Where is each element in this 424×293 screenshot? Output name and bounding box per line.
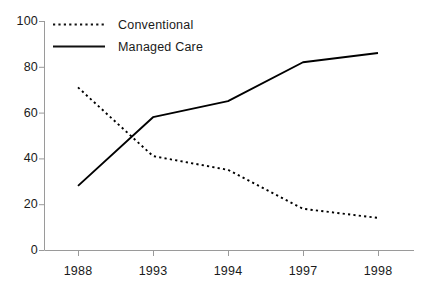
line-chart: 100 80 60 40 20 0 1988 1993 1994 1997 19… bbox=[0, 0, 424, 293]
chart-canvas bbox=[0, 0, 424, 293]
x-tick-label-1994: 1994 bbox=[198, 264, 258, 278]
y-tick-label-80: 80 bbox=[0, 60, 38, 74]
legend-item-conventional: Conventional bbox=[118, 18, 193, 32]
y-tick-label-0: 0 bbox=[0, 243, 38, 257]
y-tick-label-40: 40 bbox=[0, 151, 38, 165]
legend-item-managed-care: Managed Care bbox=[118, 40, 203, 54]
legend-swatches bbox=[53, 25, 105, 47]
x-tick-label-1993: 1993 bbox=[123, 264, 183, 278]
y-tick-label-60: 60 bbox=[0, 106, 38, 120]
y-tick-label-100: 100 bbox=[0, 14, 38, 28]
series-line-managed-care bbox=[78, 53, 378, 186]
y-axis-ticks bbox=[39, 22, 45, 251]
chart-series bbox=[78, 53, 378, 218]
series-line-conventional bbox=[78, 87, 378, 218]
x-tick-label-1988: 1988 bbox=[48, 264, 108, 278]
x-tick-label-1997: 1997 bbox=[273, 264, 333, 278]
y-tick-label-20: 20 bbox=[0, 197, 38, 211]
x-axis-ticks bbox=[79, 251, 379, 257]
x-tick-label-1998: 1998 bbox=[348, 264, 408, 278]
